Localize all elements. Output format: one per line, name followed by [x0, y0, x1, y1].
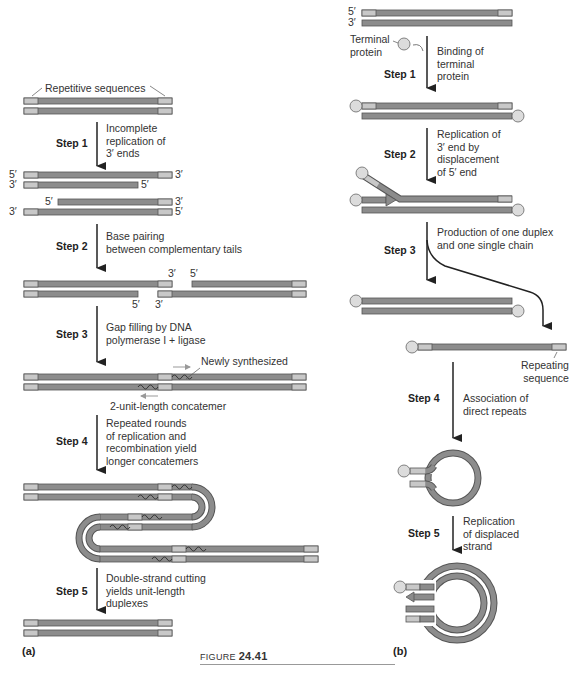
a-step4-desc: Repeated rounds of replication and recom…	[106, 417, 198, 467]
concatemer-label: 2-unit-length concatemer	[110, 400, 226, 413]
a-step3-desc: Gap filling by DNA polymerase I + ligase	[106, 321, 206, 346]
repeating-sequence-label: Repeating sequence	[521, 359, 569, 384]
terminal-protein-icon	[398, 38, 410, 50]
panel-b-step3-duplex	[350, 295, 524, 317]
a-step4-label: Step 4	[56, 435, 88, 447]
a-end-3p: 3′	[168, 267, 176, 279]
a-step1-desc: Incomplete replication of 3′ ends	[106, 122, 166, 160]
a-end-3p: 3′	[175, 168, 183, 180]
panel-a-step1-products	[24, 172, 172, 215]
b-end-3p: 3′	[348, 16, 356, 28]
panel-b-circle-intermediate	[398, 453, 478, 503]
a-step2-label: Step 2	[56, 240, 88, 252]
a-end-3p: 3′	[9, 205, 17, 217]
a-step5-label: Step 5	[56, 585, 88, 597]
a-step2-desc: Base pairing between complementary tails	[106, 230, 242, 255]
panel-a-concatemer	[24, 367, 306, 396]
a-step1-label: Step 1	[56, 137, 88, 149]
panel-a-unit-duplex	[24, 620, 172, 636]
b-step1-desc: Binding of terminal protein	[437, 45, 484, 83]
b-step3-desc: Production of one duplex and one single …	[437, 226, 553, 251]
a-end-5p: 5′	[45, 195, 53, 207]
repetitive-sequences-label: Repetitive sequences	[45, 82, 145, 95]
a-end-5p: 5′	[132, 298, 140, 310]
figure-caption: FIGURE 24.41	[200, 650, 268, 662]
newly-synthesized-label: Newly synthesized	[201, 355, 288, 368]
panel-b-label: (b)	[393, 645, 407, 657]
b-step2-desc: Replication of 3′ end by displacement of…	[437, 128, 501, 178]
a-step3-label: Step 3	[56, 328, 88, 340]
b-step1-label: Step 1	[384, 68, 416, 80]
terminal-protein-label: Terminal protein	[350, 33, 390, 58]
b-step2-label: Step 2	[384, 148, 416, 160]
a-step5-desc: Double-strand cutting yields unit-length…	[106, 572, 206, 610]
b-step4-label: Step 4	[408, 392, 440, 404]
a-end-5p: 5′	[175, 205, 183, 217]
panel-b-step1-product	[350, 100, 524, 122]
b-step3-label: Step 3	[384, 244, 416, 256]
caption-rule	[200, 664, 395, 665]
panel-a-long-concatemer	[24, 484, 318, 562]
a-end-3p: 3′	[9, 178, 17, 190]
panel-b-single-chain	[406, 341, 566, 358]
a-end-5p: 5′	[190, 267, 198, 279]
b-step5-label: Step 5	[408, 527, 440, 539]
a-end-5p: 5′	[141, 178, 149, 190]
b-step5-desc: Replication of displaced strand	[463, 515, 519, 553]
b-step4-desc: Association of direct repeats	[463, 392, 528, 417]
panel-b-final-circle	[394, 566, 494, 640]
panel-a-step2-products	[24, 281, 306, 297]
panel-a-label: (a)	[22, 645, 35, 657]
panel-b-duplex-initial	[362, 10, 512, 26]
a-end-3p: 3′	[155, 298, 163, 310]
